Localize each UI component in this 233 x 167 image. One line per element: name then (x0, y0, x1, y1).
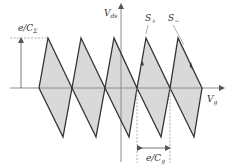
x-axis-label: Vg (207, 94, 218, 106)
s-minus-label: S− (168, 13, 179, 24)
y-axis-label: Vds (104, 8, 117, 19)
period-label: e/Cg (146, 153, 165, 165)
coulomb-diamond-diagram: e/CΣ e/Cg Vds Vg S+ S− (0, 0, 233, 167)
s-plus-label: S+ (145, 13, 156, 24)
s-plus-leader (146, 25, 148, 34)
amplitude-label: e/CΣ (18, 23, 38, 34)
